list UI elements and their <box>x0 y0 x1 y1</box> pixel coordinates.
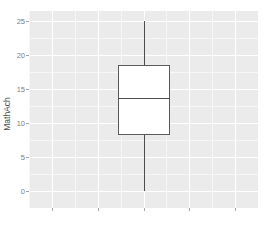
x-axis-tick-marks <box>29 208 258 212</box>
gridline-vertical-major <box>98 11 99 208</box>
gridline-vertical-major <box>189 11 190 208</box>
boxplot-figure: MathAch 0510152025 <box>0 0 271 227</box>
y-axis-tick-label: 10 <box>12 119 25 128</box>
y-axis-tick-label: 15 <box>12 85 25 94</box>
whisker-upper <box>144 21 145 65</box>
gridline-vertical-minor <box>75 11 76 208</box>
y-axis-tick-label: 5 <box>12 153 25 162</box>
x-axis-tick-mark <box>235 208 236 211</box>
box-iqr <box>118 65 170 136</box>
y-axis-tick-label: 25 <box>12 17 25 26</box>
plot-panel <box>29 11 258 208</box>
y-axis-tick-labels: 0510152025 <box>12 0 25 227</box>
gridline-vertical-minor <box>212 11 213 208</box>
whisker-lower <box>144 135 145 191</box>
gridline-vertical-minor <box>29 11 30 208</box>
x-axis-tick-mark <box>98 208 99 211</box>
x-axis-tick-mark <box>52 208 53 211</box>
x-axis-tick-mark <box>189 208 190 211</box>
y-axis-tick-label: 0 <box>12 187 25 196</box>
y-axis-tick-label: 20 <box>12 51 25 60</box>
gridline-vertical-major <box>52 11 53 208</box>
x-axis-tick-mark <box>144 208 145 211</box>
median-line <box>118 98 170 99</box>
gridline-vertical-major <box>235 11 236 208</box>
y-axis-title-label: MathAch <box>2 97 12 131</box>
